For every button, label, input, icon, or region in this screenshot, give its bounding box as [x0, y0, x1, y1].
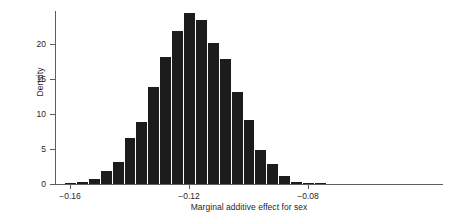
histogram-bar: [207, 43, 219, 184]
histogram-bar: [76, 182, 88, 184]
histogram-bar: [183, 13, 195, 184]
histogram-bar: [314, 183, 326, 184]
histogram-bar: [171, 31, 183, 184]
histogram-bar: [302, 183, 314, 184]
x-axis-label: Marginal additive effect for sex: [55, 202, 443, 213]
histogram-bar: [124, 138, 136, 184]
histogram-bar: [159, 57, 171, 184]
histogram-bar: [88, 179, 100, 184]
histogram-bar: [243, 120, 255, 184]
histogram-bar: [135, 122, 147, 184]
histogram-figure: Density 05101520 −0.16−0.12−0.08 Margina…: [0, 0, 450, 220]
histogram-bar: [278, 176, 290, 184]
histogram-bar: [219, 59, 231, 184]
histogram-bar: [112, 162, 124, 184]
histogram-bar: [266, 164, 278, 184]
histogram-bar: [195, 20, 207, 185]
histogram-bars: [0, 0, 450, 220]
histogram-bar: [254, 150, 266, 184]
histogram-bar: [64, 183, 76, 184]
histogram-bar: [100, 171, 112, 184]
histogram-bar: [290, 182, 302, 184]
histogram-bar: [231, 92, 243, 184]
histogram-bar: [147, 87, 159, 184]
